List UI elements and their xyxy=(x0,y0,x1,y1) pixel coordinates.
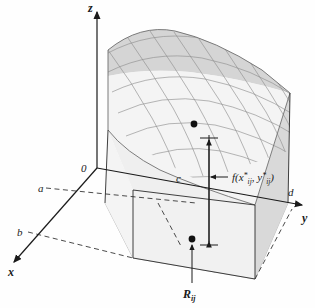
region-label-sub: ij xyxy=(191,294,196,303)
base-sample-dot xyxy=(189,236,196,243)
surface-sample-dot xyxy=(191,121,198,128)
svg-text:Rij: Rij xyxy=(182,287,196,303)
bound-c-label: c xyxy=(176,172,181,184)
diagram-canvas: z x y 0 a b c d f(x*ij, y*ij) Rij xyxy=(0,0,315,308)
bound-d-label: d xyxy=(288,186,294,198)
riemann-sum-figure: z x y 0 a b c d f(x*ij, y*ij) Rij xyxy=(0,0,315,308)
bound-b-label: b xyxy=(17,226,23,238)
region-label: Rij xyxy=(182,287,196,303)
origin-label: 0 xyxy=(81,162,87,174)
y-axis-label: y xyxy=(300,211,308,225)
dashed-edge-b xyxy=(28,232,133,258)
x-axis xyxy=(14,168,97,262)
height-label-comma: , y xyxy=(252,171,263,183)
wall-front-fill xyxy=(133,190,255,279)
region-label-r: R xyxy=(182,287,191,301)
height-label-f: f(x xyxy=(232,171,244,184)
height-label-close: ) xyxy=(269,171,274,184)
bound-a-label: a xyxy=(38,182,44,194)
x-axis-label: x xyxy=(7,265,14,279)
z-axis-label: z xyxy=(87,1,93,15)
